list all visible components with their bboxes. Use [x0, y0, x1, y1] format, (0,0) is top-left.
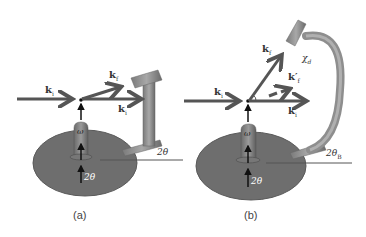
- label-k-final: kf: [109, 70, 118, 82]
- panel-a: [17, 70, 183, 196]
- label-k-incident: ki: [45, 85, 54, 97]
- diffraction-geometry-diagram: [0, 0, 366, 237]
- caption-b: (b): [244, 209, 257, 221]
- label-two-theta-b: 2θB: [326, 149, 342, 160]
- label-chi: χd: [302, 54, 311, 65]
- label-omega: ω: [77, 128, 84, 136]
- label-two-theta-arm: 2θ: [157, 148, 168, 157]
- chi-arc: [306, 35, 341, 150]
- diffracted-beam-arrow: [82, 87, 120, 99]
- label-k-incident: ki: [214, 87, 223, 99]
- projected-beam-dash: [269, 93, 277, 96]
- label-two-theta-axis: 2θ: [251, 177, 262, 186]
- label-k-final-prime: k′f: [288, 72, 300, 84]
- label-k-transmitted: ki: [118, 104, 127, 116]
- label-k-final: kf: [262, 44, 271, 56]
- projected-beam-arrow: [281, 89, 289, 92]
- caption-a: (a): [73, 209, 86, 221]
- label-two-theta-axis: 2θ: [84, 173, 95, 182]
- detector-arm-vertical: [143, 80, 155, 146]
- label-k-transmitted: ki: [288, 106, 297, 118]
- detector-head: [286, 20, 306, 46]
- label-omega: ω: [244, 130, 251, 138]
